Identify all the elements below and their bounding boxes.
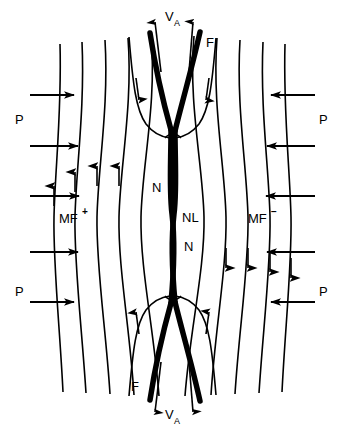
label-neutral-line: NL <box>182 210 199 225</box>
separatrix-bottom-right <box>175 302 200 401</box>
separatrix-top-right <box>175 32 200 131</box>
label-magnetic-field-right: MF <box>248 211 267 226</box>
separatrix-bottom-left <box>150 303 171 400</box>
field-line-right-3 <box>235 40 248 394</box>
label-magnetic-field-left: MF <box>59 211 78 226</box>
label-alfven-bottom-sub: A <box>174 416 180 426</box>
label-alfven-top-sub: A <box>174 18 180 28</box>
field-line-left-3 <box>97 40 110 394</box>
field-line-right-5 <box>282 44 291 392</box>
label-magnetic-field-left-sign: + <box>82 206 88 217</box>
field-line-left-4 <box>119 38 134 395</box>
field-line-right-2 <box>211 38 226 395</box>
label-neutral-lower: N <box>184 239 193 254</box>
reconnection-figure: P P P P MF + MF − N NL N F F V A V A <box>0 0 345 434</box>
diagram-canvas: P P P P MF + MF − N NL N F F V A V A <box>0 0 345 434</box>
label-plasma-left-lower: P <box>15 284 24 299</box>
field-line-left-5 <box>141 36 159 396</box>
label-separatrix-top: F <box>206 35 214 50</box>
label-neutral-upper: N <box>152 180 161 195</box>
field-lines-left-arrowheads <box>54 166 119 206</box>
neutral-sheet-branch-right <box>172 131 175 302</box>
label-magnetic-field-right-sign: − <box>271 206 277 217</box>
separatrix-top-left <box>150 33 171 130</box>
label-separatrix-bottom: F <box>131 379 139 394</box>
label-alfven-top: V <box>165 9 174 24</box>
label-alfven-bottom: V <box>165 407 174 422</box>
current-sheet-group <box>170 130 175 303</box>
label-plasma-right-upper: P <box>319 112 328 127</box>
label-plasma-right-lower: P <box>319 284 328 299</box>
label-plasma-left-upper: P <box>15 112 24 127</box>
